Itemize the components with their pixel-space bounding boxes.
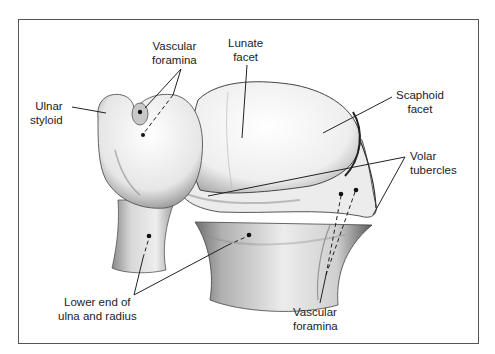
label-lower-end-ulna-radius: Lower end of ulna and radius bbox=[58, 296, 137, 323]
label-lunate-facet: Lunate facet bbox=[228, 37, 263, 64]
label-scaphoid-facet: Scaphoid facet bbox=[396, 89, 444, 116]
carpal-facets bbox=[191, 82, 360, 193]
label-vascular-foramina-bottom: Vascular foramina bbox=[293, 306, 338, 333]
ulnar-head bbox=[98, 94, 203, 208]
ulna-shaft bbox=[112, 200, 175, 273]
label-volar-tubercles: Volar tubercles bbox=[410, 150, 457, 177]
radius-shaft bbox=[195, 222, 372, 311]
label-ulnar-styloid: Ulnar styloid bbox=[30, 100, 63, 127]
label-vascular-foramina-top: Vascular foramina bbox=[152, 40, 197, 67]
